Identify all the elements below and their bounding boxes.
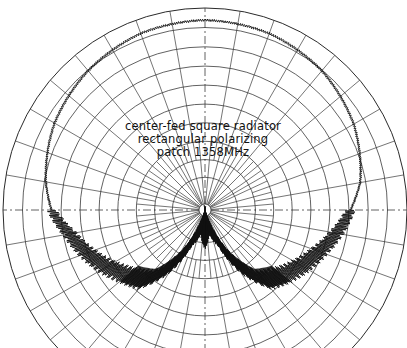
grid-spoke-inner xyxy=(137,204,199,210)
grid-spoke xyxy=(237,249,334,348)
annotation-line-3: patch 1358MHz xyxy=(108,146,298,159)
grid-spoke-inner xyxy=(211,204,273,210)
grid-spoke-inner xyxy=(157,162,201,206)
grid-spoke-inner xyxy=(209,162,253,206)
grid-spoke-inner xyxy=(143,181,200,208)
grid-spoke xyxy=(170,260,196,348)
grid-spoke-inner xyxy=(211,212,271,228)
polar-chart xyxy=(0,0,407,348)
grid-spoke xyxy=(214,260,240,348)
grid-spoke-inner xyxy=(139,212,200,228)
polar-grid xyxy=(3,8,407,348)
grid-spoke-inner xyxy=(139,192,200,208)
grid-spoke-inner xyxy=(211,211,273,217)
grid-ring xyxy=(61,66,349,348)
grid-spoke-inner xyxy=(137,211,199,217)
chart-annotation: center-fed square radiator rectangular p… xyxy=(108,120,298,159)
grid-spoke-inner xyxy=(210,181,267,208)
grid-spoke-inner xyxy=(143,213,200,240)
grid-spoke-inner xyxy=(211,192,271,208)
grid-spoke-inner xyxy=(210,213,267,240)
